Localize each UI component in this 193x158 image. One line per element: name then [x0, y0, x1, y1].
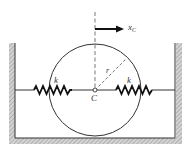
center-label: C [91, 94, 97, 103]
right-wall-hatch [176, 43, 182, 139]
displacement-subscript: C [132, 27, 136, 33]
radius-line [95, 59, 126, 90]
spring-left-label: k [54, 76, 58, 85]
displacement-label: xC [128, 23, 136, 33]
center-pin [93, 88, 97, 92]
displacement-arrow [95, 26, 124, 33]
right-spring [116, 86, 152, 94]
mechanism-diagram [0, 0, 193, 158]
spring-right-label: k [127, 76, 131, 85]
floor-hatch [9, 138, 182, 144]
left-spring [34, 86, 72, 94]
left-wall-hatch [9, 43, 15, 139]
radius-label: r [106, 67, 109, 75]
